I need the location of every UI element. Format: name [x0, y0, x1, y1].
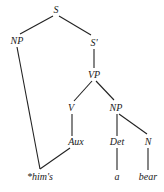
edge-aux-hims [40, 148, 70, 169]
node-det: Det [109, 136, 125, 147]
leaf-bear: bear [139, 171, 157, 182]
edge-s-sbar [59, 16, 91, 35]
node-aux: Aux [67, 136, 84, 147]
leaf-a: a [115, 171, 120, 182]
edge-np-hims [17, 47, 40, 169]
node-np-subject: NP [10, 35, 24, 46]
node-s: S [54, 4, 59, 15]
node-v: V [68, 102, 76, 113]
edge-np-n [119, 114, 147, 134]
edge-vp-v [74, 81, 92, 101]
edge-s-np [20, 16, 53, 34]
leaf-hims: *him's [27, 171, 53, 182]
node-s-bar: S' [90, 37, 98, 48]
node-np-object: NP [109, 102, 123, 113]
node-n: N [144, 136, 153, 147]
edge-vp-np [96, 81, 114, 100]
node-vp: VP [88, 69, 100, 80]
syntax-tree-diagram: S NP S' VP V NP Aux Det N *him's a bear [0, 0, 164, 192]
